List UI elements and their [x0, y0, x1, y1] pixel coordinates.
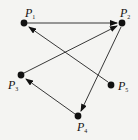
graph-svg: P1 P2 P3 P4 P5 — [0, 0, 138, 140]
node-p5 — [108, 82, 115, 89]
label-p2: P2 — [119, 6, 130, 20]
label-p3: P3 — [7, 78, 18, 92]
node-p3 — [18, 72, 25, 79]
label-p1: P1 — [24, 6, 35, 20]
node-p4 — [75, 113, 82, 120]
edge-p2-p4 — [81, 27, 121, 111]
edge-p4-p3 — [26, 79, 75, 114]
directed-graph-diagram: P1 P2 P3 P4 P5 — [0, 0, 138, 140]
node-p1 — [21, 20, 28, 27]
label-p4: P4 — [76, 120, 87, 134]
label-p5: P5 — [117, 79, 128, 93]
node-p2 — [119, 20, 126, 27]
edge-p5-p1 — [29, 27, 108, 82]
